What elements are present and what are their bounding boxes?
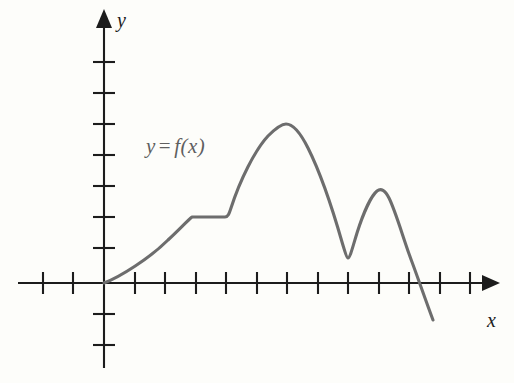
curve-label: y=f(x) <box>146 134 205 159</box>
y-axis-label: y <box>115 9 126 32</box>
graph-figure: x y y=f(x) <box>0 0 514 383</box>
x-axis-label: x <box>486 309 496 331</box>
y-axis-arrowhead <box>96 9 112 28</box>
function-plot: x y <box>0 0 514 383</box>
x-axis-arrowhead <box>482 275 500 291</box>
y-axis: y <box>93 9 126 368</box>
curve-label-equals: = <box>156 134 174 158</box>
curve-label-y: y <box>146 134 156 158</box>
curve-label-fx: f(x) <box>174 134 205 158</box>
